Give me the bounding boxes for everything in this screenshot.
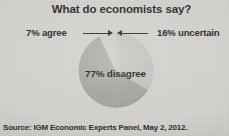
page-title: What do economists say?: [0, 3, 229, 15]
pie-label-agree: 7% agree: [26, 27, 67, 38]
leader-line-agree: [83, 33, 109, 34]
chart-figure: What do economists say? 7% agree 16% unc…: [0, 0, 229, 136]
pie-label-uncertain: 16% uncertain: [157, 27, 219, 38]
arrowhead-agree-icon: [108, 30, 113, 36]
source-note: Source: IGM Economic Experts Panel, May …: [3, 123, 187, 132]
leader-line-uncertain: [122, 33, 148, 34]
arrowhead-uncertain-icon: [117, 30, 122, 36]
pie-label-disagree: 77% disagree: [77, 68, 154, 79]
